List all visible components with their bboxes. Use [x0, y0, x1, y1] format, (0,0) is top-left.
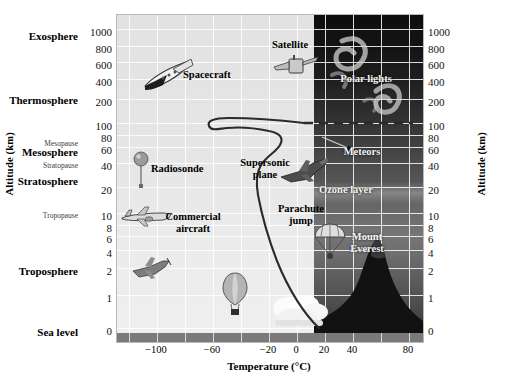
y-tick-left-4: 4	[82, 248, 112, 259]
y-axis-title-right: Altitude (km)	[476, 132, 487, 196]
x-tick-20: 20	[319, 344, 330, 355]
annotation-supersonic-plane: Supersonic plane	[240, 157, 290, 180]
y-tick-right-1: 1	[428, 293, 462, 304]
y-tick-right-1000: 1000	[428, 27, 462, 38]
y-tick-right-20: 20	[428, 185, 462, 196]
satellite-icon	[272, 53, 320, 79]
annotation-ozone-layer: Ozone layer	[319, 184, 373, 196]
x-tick-minus60: −60	[204, 344, 220, 355]
annotation-mount-everest: Mount Everest	[339, 231, 395, 254]
y-tick-right-200: 200	[428, 97, 462, 108]
hot-air-balloon-icon	[222, 272, 248, 316]
layer-label-tropopause: Tropopause	[43, 211, 78, 220]
x-axis-title: Temperature (°C)	[116, 360, 422, 372]
y-tick-right-2: 2	[428, 266, 462, 277]
x-tick-minus100: −100	[145, 344, 167, 355]
annotation-satellite: Satellite	[272, 39, 308, 51]
y-tick-left-600: 600	[82, 60, 112, 71]
y-tick-left-1000: 1000	[82, 27, 112, 38]
annotation-parachute-jump: Parachute jump	[278, 203, 324, 226]
annotation-radiosonde: Radiosonde	[151, 163, 204, 175]
y-tick-right-80: 80	[428, 133, 462, 144]
propeller-plane-icon	[129, 255, 173, 281]
annotation-polar-lights: Polar lights	[340, 73, 391, 85]
x-tick-40: 40	[347, 344, 358, 355]
y-tick-left-40: 40	[82, 161, 112, 172]
annotation-meteors: Meteors	[344, 146, 381, 158]
y-tick-left-6: 6	[82, 234, 112, 245]
layer-label-thermosphere: Thermosphere	[9, 94, 78, 106]
annotation-commercial-aircraft: Commercial aircraft	[165, 211, 220, 234]
y-axis-ticks-right: 1000 800 600 400 200 100 80 60 40 20 10 …	[428, 0, 462, 385]
y-tick-left-200: 200	[82, 97, 112, 108]
y-tick-right-60: 60	[428, 145, 462, 156]
y-tick-right-100: 100	[428, 121, 462, 132]
y-tick-left-60: 60	[82, 145, 112, 156]
y-tick-left-800: 800	[82, 44, 112, 55]
y-tick-right-10: 10	[428, 211, 462, 222]
y-tick-left-1: 1	[82, 293, 112, 304]
layer-label-mesosphere: Mesosphere	[22, 146, 78, 158]
y-axis-ticks-left: 1000 800 600 400 200 100 80 60 40 20 10 …	[80, 0, 112, 385]
y-tick-left-400: 400	[82, 77, 112, 88]
y-tick-right-400: 400	[428, 77, 462, 88]
y-tick-left-80: 80	[82, 133, 112, 144]
layer-label-exosphere: Exosphere	[29, 30, 78, 42]
y-tick-right-800: 800	[428, 44, 462, 55]
layer-label-troposphere: Troposphere	[19, 265, 78, 277]
x-tick-0: 0	[293, 344, 298, 355]
layer-label-sea-level: Sea level	[37, 326, 78, 338]
y-tick-right-600: 600	[428, 60, 462, 71]
y-tick-right-40: 40	[428, 161, 462, 172]
radiosonde-balloon-icon	[133, 151, 149, 191]
x-axis-ticks: −100 −60 −20 0 20 40 80	[116, 344, 422, 358]
atmosphere-diagram: Exosphere Thermosphere Mesopause Mesosph…	[0, 0, 506, 385]
layer-label-stratopause: Stratopause	[43, 161, 78, 170]
annotation-spacecraft: Spacecraft	[183, 69, 231, 81]
y-axis-title-left: Altitude (km)	[4, 132, 15, 196]
ground-strip	[117, 333, 423, 342]
x-tick-80: 80	[403, 344, 414, 355]
y-tick-left-100: 100	[82, 121, 112, 132]
y-tick-right-4: 4	[428, 248, 462, 259]
y-tick-right-0: 0	[428, 326, 462, 337]
y-tick-left-2: 2	[82, 266, 112, 277]
x-tick-minus20: −20	[260, 344, 276, 355]
y-tick-left-10: 10	[82, 211, 112, 222]
layer-label-stratosphere: Stratosphere	[18, 175, 78, 187]
y-tick-left-20: 20	[82, 185, 112, 196]
plot-area: Spacecraft Satellite Radiosonde Superson…	[116, 14, 424, 343]
y-tick-left-0: 0	[82, 326, 112, 337]
y-tick-right-6: 6	[428, 234, 462, 245]
